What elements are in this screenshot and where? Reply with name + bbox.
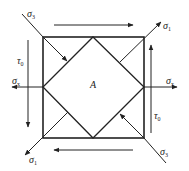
sigmax-left-label: σx [12,75,20,87]
center-label: A [89,79,97,90]
tau0-right-label: τ0 [154,110,161,122]
tau0-left-label: τ0 [17,55,24,67]
sigmax-right-label: σx [166,75,174,87]
stress-element-diagram: σ3 σ1 σ1 σ3 σx σx τ0 τ0 A [0,0,189,171]
sigma3-top-left-label: σ3 [27,8,35,20]
sigma3-bottom-right-label: σ3 [160,146,168,158]
sigma1-bottom-left-label: σ1 [29,154,37,166]
sigma1-top-right-label: σ1 [163,20,171,32]
